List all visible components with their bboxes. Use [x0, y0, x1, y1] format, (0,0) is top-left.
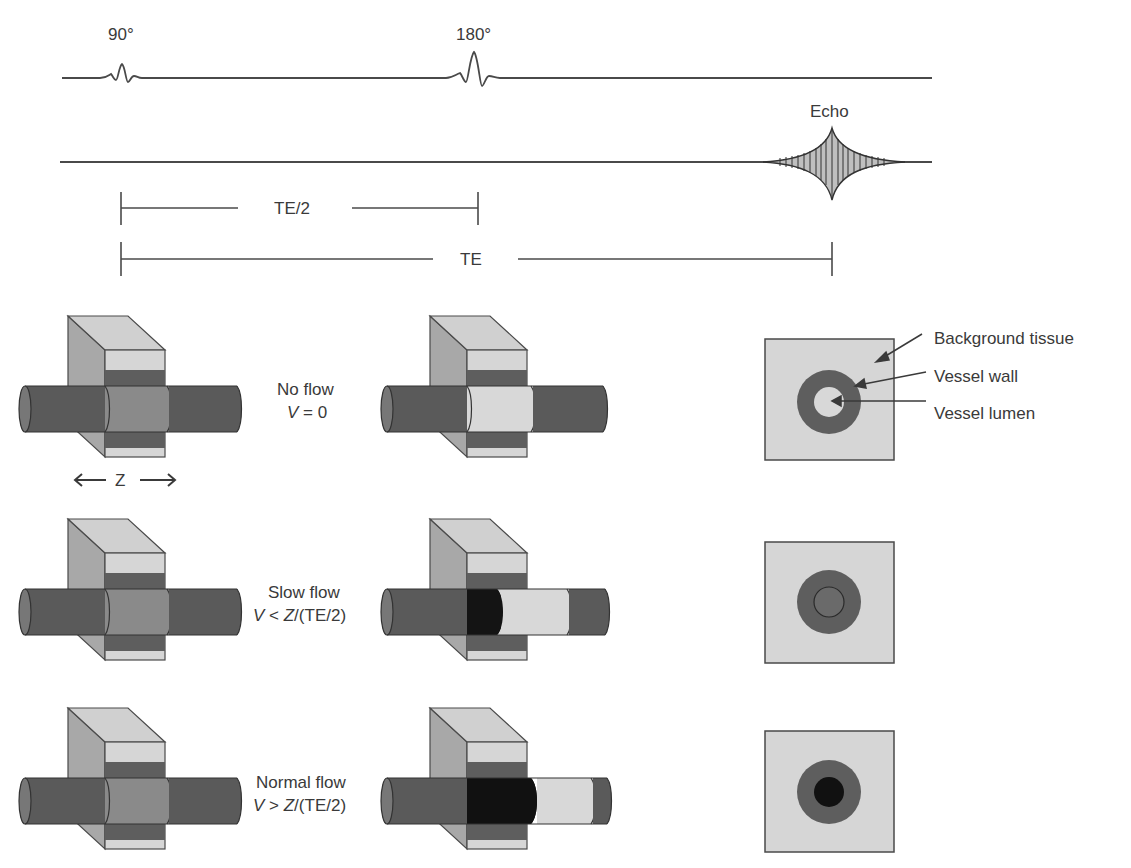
- z-label: Z: [115, 471, 125, 490]
- legend-vessel-wall: Vessel wall: [934, 367, 1018, 386]
- legend-vessel-lumen: Vessel lumen: [934, 404, 1035, 423]
- pulse-180-label: 180°: [456, 25, 491, 44]
- row1-slice-after: [381, 316, 608, 457]
- echo-signal-line: [60, 128, 932, 200]
- row1-condition-label: No flow: [277, 380, 334, 399]
- row3-condition-label: Normal flow: [256, 773, 346, 792]
- flow-void-diagram: 90° 180° Echo: [0, 0, 1131, 868]
- row3-formula: V > Z/(TE/2): [253, 796, 346, 815]
- pulse-90-label: 90°: [108, 25, 134, 44]
- row3-cross-section: [765, 731, 894, 852]
- te-half-label: TE/2: [274, 199, 310, 218]
- row2-formula: V < Z/(TE/2): [253, 606, 346, 625]
- row2-cross-section: [765, 542, 894, 663]
- legend-background-tissue: Background tissue: [934, 329, 1074, 348]
- row1-slice-before: [19, 316, 242, 457]
- rf-pulse-line: [62, 52, 932, 86]
- row3-slice-before: [19, 708, 242, 849]
- row2-slice-after: [381, 519, 610, 660]
- row2-slice-before: [19, 519, 242, 660]
- row3-slice-after: [381, 708, 612, 849]
- te-label: TE: [460, 250, 482, 269]
- echo-label: Echo: [810, 102, 849, 121]
- row1-formula: V = 0: [287, 403, 327, 422]
- row2-condition-label: Slow flow: [268, 583, 341, 602]
- row1-cross-section: [765, 339, 894, 460]
